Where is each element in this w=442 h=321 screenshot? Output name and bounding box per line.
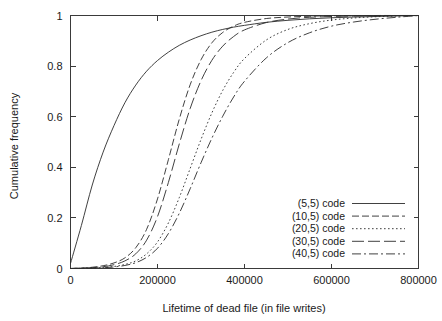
chart-svg: 0200000400000600000800000 00.20.40.60.81… (0, 0, 442, 321)
legend-label-3: (30,5) code (292, 235, 345, 247)
y-tick-label: 0.8 (47, 60, 62, 72)
legend-label-0: (5,5) code (298, 197, 345, 209)
series-line-4 (71, 16, 419, 269)
y-tick-label: 0.2 (47, 212, 62, 224)
series-line-0 (71, 16, 419, 264)
x-tick-label: 400000 (226, 274, 263, 286)
y-tick-label: 0.4 (47, 161, 62, 173)
y-axis-title: Cumulative frequency (8, 92, 20, 199)
y-axis-ticks (71, 16, 419, 269)
y-tick-label: 1 (56, 10, 62, 22)
x-tick-label: 800000 (400, 274, 437, 286)
legend-label-2: (20,5) code (292, 222, 345, 234)
x-axis-tick-labels: 0200000400000600000800000 (67, 274, 436, 286)
x-tick-label: 600000 (313, 274, 350, 286)
series-line-3 (71, 15, 419, 268)
series-line-2 (71, 16, 419, 269)
y-tick-label: 0.6 (47, 111, 62, 123)
chart-figure: 0200000400000600000800000 00.20.40.60.81… (0, 0, 442, 321)
x-tick-label: 0 (67, 274, 73, 286)
series-line-1 (71, 15, 419, 268)
x-axis-title: Lifetime of dead file (in file writes) (162, 302, 325, 314)
x-axis-ticks (71, 16, 419, 269)
legend-label-4: (40,5) code (292, 247, 345, 259)
x-tick-label: 200000 (139, 274, 176, 286)
y-axis-tick-labels: 00.20.40.60.81 (47, 10, 62, 275)
y-tick-label: 0 (56, 263, 62, 275)
chart-series-group (71, 15, 419, 268)
chart-legend: (5,5) code(10,5) code(20,5) code(30,5) c… (292, 197, 405, 259)
plot-frame (71, 16, 419, 269)
legend-label-1: (10,5) code (292, 210, 345, 222)
